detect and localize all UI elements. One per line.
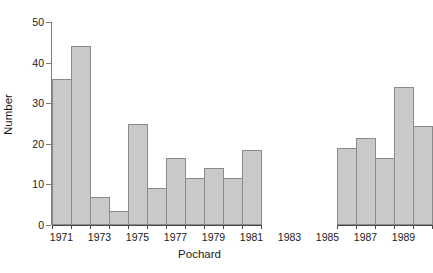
x-axis-title: Pochard: [0, 248, 399, 261]
bar-1979: [204, 168, 224, 225]
x-tick-mark: [242, 225, 243, 229]
x-tick-mark: [128, 225, 129, 229]
y-tick-mark: [46, 184, 51, 185]
bar-1986: [337, 148, 357, 225]
x-tick-mark: [356, 225, 357, 229]
y-tick-mark: [46, 225, 51, 226]
bar-1981: [242, 150, 262, 225]
y-tick-label: 40: [18, 58, 44, 68]
x-tick-mark: [204, 225, 205, 229]
x-tick-label-1977: 1977: [156, 231, 196, 243]
bar-1988: [375, 158, 395, 225]
y-tick-label: 0: [18, 220, 44, 230]
y-tick-mark: [46, 103, 51, 104]
bar-1980: [223, 178, 243, 225]
bar-1973: [90, 197, 110, 225]
y-tick-label-wrap: 0: [16, 220, 44, 230]
bar-1978: [185, 178, 205, 225]
x-tick-label-1989: 1989: [384, 231, 424, 243]
y-axis-title: Number: [2, 85, 15, 145]
x-tick-mark: [147, 225, 148, 229]
x-tick-mark: [413, 225, 414, 229]
y-tick-label: 50: [18, 17, 44, 27]
x-axis-line-right: [337, 225, 433, 226]
bar-1975: [128, 124, 148, 226]
x-tick-label-1981: 1981: [232, 231, 272, 243]
bar-1987: [356, 138, 376, 225]
x-tick-mark: [109, 225, 110, 229]
y-tick-label-wrap: 40: [16, 58, 44, 68]
x-tick-label-1975: 1975: [118, 231, 158, 243]
bar-1989: [394, 87, 414, 225]
y-tick-mark: [46, 22, 51, 23]
x-tick-mark: [90, 225, 91, 229]
x-tick-mark: [394, 225, 395, 229]
bar-1976: [147, 188, 167, 225]
x-tick-label-1979: 1979: [194, 231, 234, 243]
x-tick-mark: [185, 225, 186, 229]
y-tick-mark: [46, 144, 51, 145]
x-tick-mark: [375, 225, 376, 229]
y-tick-label-wrap: 10: [16, 179, 44, 189]
bar-1990: [413, 126, 433, 225]
bars-layer: [52, 18, 392, 225]
x-tick-mark: [337, 225, 338, 229]
y-tick-label-wrap: 20: [16, 139, 44, 149]
x-tick-label-1983: 1983: [270, 231, 310, 243]
bar-1974: [109, 211, 129, 225]
x-tick-mark: [71, 225, 72, 229]
x-tick-label-1971: 1971: [42, 231, 82, 243]
y-tick-mark: [46, 63, 51, 64]
x-axis-line-left: [52, 225, 262, 226]
y-tick-label: 30: [18, 98, 44, 108]
bar-1971: [52, 79, 72, 225]
y-tick-label: 20: [18, 139, 44, 149]
x-tick-mark: [52, 225, 53, 229]
x-tick-label-1973: 1973: [80, 231, 120, 243]
bar-1972: [71, 46, 91, 225]
x-tick-mark: [261, 225, 262, 229]
bar-1977: [166, 158, 186, 225]
x-tick-label-1987: 1987: [346, 231, 386, 243]
x-tick-mark: [166, 225, 167, 229]
x-tick-label-1985: 1985: [308, 231, 348, 243]
y-tick-label-wrap: 50: [16, 17, 44, 27]
x-tick-mark: [223, 225, 224, 229]
y-tick-label: 10: [18, 179, 44, 189]
y-tick-label-wrap: 30: [16, 98, 44, 108]
